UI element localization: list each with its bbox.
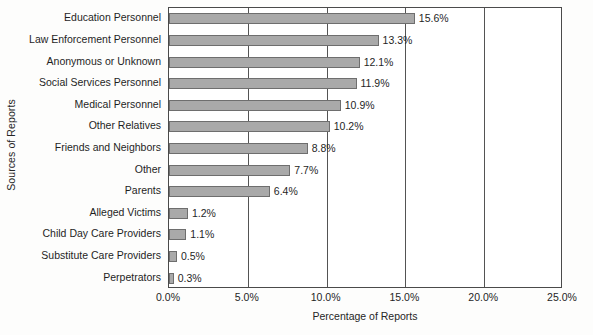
bar — [169, 121, 330, 132]
category-label: Friends and Neighbors — [55, 141, 161, 154]
category-label: Child Day Care Providers — [43, 227, 161, 240]
category-label: Law Enforcement Personnel — [29, 33, 161, 46]
x-axis-tick-label: 20.0% — [468, 291, 498, 303]
category-label: Other — [135, 163, 161, 176]
category-label: Substitute Care Providers — [41, 249, 161, 262]
bar — [169, 208, 188, 219]
bar — [169, 229, 186, 240]
bar — [169, 100, 341, 111]
bar — [169, 273, 174, 284]
bar — [169, 165, 290, 176]
bar — [169, 78, 357, 89]
category-label: Medical Personnel — [75, 98, 161, 111]
bar-value-label: 12.1% — [364, 56, 394, 69]
bar — [169, 13, 415, 24]
bar-value-label: 1.1% — [190, 228, 214, 241]
x-axis-tick-label: 0.0% — [156, 291, 180, 303]
x-axis-tick-label: 15.0% — [390, 291, 420, 303]
category-label: Other Relatives — [89, 119, 161, 132]
bar-value-label: 0.5% — [181, 250, 205, 263]
x-axis-tick-labels: 0.0%5.0%10.0%15.0%20.0%25.0% — [168, 291, 562, 307]
gridline — [405, 8, 406, 287]
bar-value-label: 6.4% — [274, 185, 298, 198]
category-label: Anonymous or Unknown — [47, 55, 161, 68]
x-axis-tick-label: 5.0% — [235, 291, 259, 303]
bar-value-label: 10.2% — [334, 120, 364, 133]
x-axis-tick-label: 10.0% — [311, 291, 341, 303]
category-label: Perpetrators — [103, 271, 161, 284]
category-axis-labels: Education PersonnelLaw Enforcement Perso… — [22, 7, 165, 288]
bar — [169, 57, 360, 68]
y-axis-title-text: Sources of Reports — [5, 99, 17, 191]
category-label: Social Services Personnel — [39, 76, 161, 89]
bar — [169, 35, 379, 46]
x-axis-tick-label: 25.0% — [547, 291, 577, 303]
bar-value-label: 11.9% — [361, 77, 390, 90]
bar — [169, 251, 177, 262]
plot-area: 15.6%13.3%12.1%11.9%10.9%10.2%8.8%7.7%6.… — [168, 7, 562, 288]
bar — [169, 143, 308, 154]
gridline — [484, 8, 485, 287]
bar-value-label: 1.2% — [192, 207, 216, 220]
bar-value-label: 10.9% — [345, 99, 375, 112]
bar — [169, 186, 270, 197]
x-axis-title: Percentage of Reports — [168, 310, 562, 322]
category-label: Education Personnel — [64, 11, 161, 24]
category-label: Parents — [125, 184, 161, 197]
bar-value-label: 7.7% — [294, 164, 318, 177]
category-label: Alleged Victims — [89, 206, 161, 219]
y-axis-title: Sources of Reports — [0, 0, 22, 290]
bar-value-label: 13.3% — [383, 34, 413, 47]
bar-chart: Sources of Reports Education PersonnelLa… — [0, 0, 593, 335]
bar-value-label: 0.3% — [178, 272, 202, 285]
bar-value-label: 8.8% — [312, 142, 336, 155]
bar-value-label: 15.6% — [419, 12, 449, 25]
